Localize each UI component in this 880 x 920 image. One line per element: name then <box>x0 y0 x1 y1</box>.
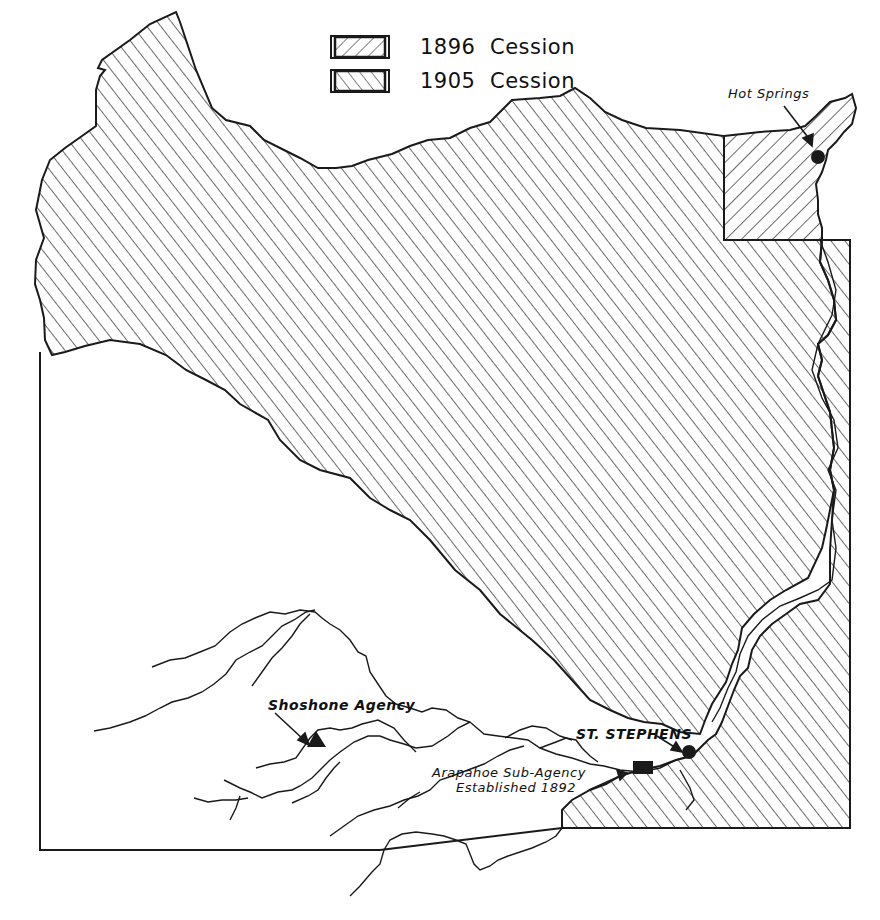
legend-year: 1896 <box>420 35 490 59</box>
legend-item-1896: 1896 Cession <box>330 30 575 64</box>
hot-springs-marker-icon <box>811 150 825 164</box>
hatch-1896-swatch-icon <box>330 35 390 59</box>
legend-item-1905: 1905 Cession <box>330 64 575 98</box>
st-stephens-marker-icon <box>682 745 696 759</box>
arapahoe-label-line1: Arapahoe Sub-Agency <box>432 765 586 780</box>
hot-springs-label: Hot Springs <box>728 86 809 101</box>
legend-label: Cession <box>490 69 575 93</box>
legend-year: 1905 <box>420 69 490 93</box>
cession-1896-region <box>724 94 856 240</box>
legend: 1896 Cession 1905 Cession <box>330 30 575 98</box>
cession-1905-north-region <box>35 12 836 734</box>
arapahoe-sub-agency-rect-icon <box>633 761 653 774</box>
arapahoe-label-line2: Established 1892 <box>432 780 586 795</box>
st-stephens-label: ST. STEPHENS <box>576 726 692 742</box>
shoshone-agency-label: Shoshone Agency <box>268 697 415 713</box>
legend-label: Cession <box>490 35 575 59</box>
hatch-1905-swatch-icon <box>330 69 390 93</box>
arapahoe-sub-agency-label: Arapahoe Sub-Agency Established 1892 <box>432 765 586 795</box>
